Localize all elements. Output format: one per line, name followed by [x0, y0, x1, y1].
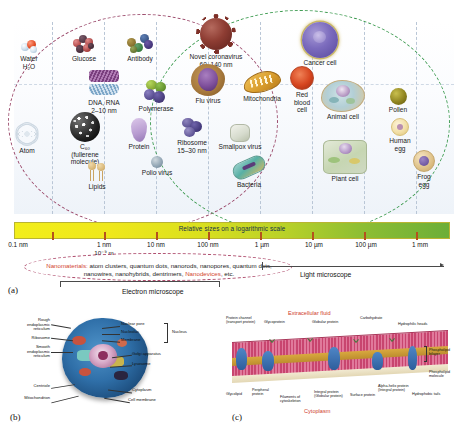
organelle-mitochondrion	[114, 371, 129, 381]
scale-tick	[416, 232, 418, 240]
specimen-label: Polio virus	[125, 169, 189, 177]
electron-microscope-label: Electron microscope	[122, 288, 184, 295]
cell-label-mitochondrion: Mitochondrion	[2, 396, 50, 401]
panel-b-animal-cell-diagram: Rough endoplasmic reticulum Ribosome Smo…	[0, 300, 226, 432]
membrane-label-filaments-cytoskeleton: Filaments of cytoskeleton	[280, 395, 310, 404]
water-icon	[19, 40, 39, 54]
bacteria-icon	[232, 156, 266, 180]
organelle-dot	[72, 336, 86, 346]
specimen-label: Lipids	[65, 183, 129, 191]
scale-tick-label: 1 nm	[97, 241, 111, 248]
panel-c-tag: (c)	[232, 412, 242, 422]
phospholipid-bilayer-illustration	[232, 336, 448, 380]
membrane-label-extracellular-fluid: Extracellular fluid	[288, 310, 331, 316]
cancer-cell-icon	[302, 22, 338, 58]
specimen-lipids: Lipids	[65, 162, 129, 191]
membrane-label-hydrophobic-tails: Hydrophobic tails	[412, 392, 446, 396]
polio-virus-icon	[151, 156, 163, 168]
scale-tick-label: 10 µm	[305, 241, 323, 248]
coronavirus-icon	[196, 14, 236, 52]
specimen-polio-virus: Polio virus	[125, 156, 189, 177]
cell-label-rough-er: Rough endoplasmic reticulum	[6, 318, 50, 332]
membrane-label-integral-protein: Integral protein (Globular protein)	[314, 390, 348, 399]
cell-label-golgi: Golgi apparatus	[132, 352, 180, 357]
specimen-plant-cell: Plant cell	[310, 140, 380, 183]
fullerene-icon	[70, 112, 100, 142]
panel-c-membrane-diagram: Extracellular fluid Protein channel (tra…	[226, 300, 454, 432]
glucose-icon	[72, 34, 96, 54]
antibody-icon	[127, 34, 153, 54]
panel-a-size-scale: Water H₂O Glucose Antibody Novel coronav…	[0, 0, 454, 300]
nucleus-group-brace	[164, 323, 168, 343]
membrane-label-glycoprotein: Glycoprotein	[264, 320, 294, 324]
leader-line	[102, 334, 120, 335]
ribosome-icon	[181, 118, 203, 138]
light-microscope-label: Light microscope	[300, 271, 351, 278]
peripheral-protein-shape	[262, 351, 274, 371]
nanomaterials-tail: , etc.	[221, 270, 234, 277]
scale-tick	[312, 232, 314, 240]
dna-rna-icon	[87, 70, 121, 98]
flu-virus-icon	[191, 64, 225, 96]
specimen-label: Plant cell	[310, 175, 380, 183]
nanomaterials-caption: Nanomaterials: atom clusters, quantum do…	[34, 262, 284, 277]
membrane-label-phospholipid-bilayer: Phospholipid bilayer	[429, 348, 454, 357]
cell-label-centriole: Centriole	[6, 384, 50, 389]
membrane-label-carbohydrate: Carbohydrate	[360, 316, 392, 320]
membrane-label-surface-protein: Surface protein	[350, 393, 378, 397]
smallpox-virus-icon	[230, 124, 250, 142]
specimen-pollen: Pollen	[366, 88, 430, 114]
scale-tick-label: 100 µm	[355, 241, 376, 248]
human-egg-icon	[391, 118, 409, 136]
atom-icon	[14, 122, 40, 146]
cell-label-smooth-er: Smooth endoplasmic reticulum	[2, 345, 50, 359]
surface-protein-shape	[372, 352, 383, 370]
specimen-label: Polymerase	[124, 105, 188, 113]
cell-label-lysosome: Lysosome	[132, 362, 176, 367]
panel-b-tag: (b)	[10, 412, 21, 422]
cell-label-membrane: Membrane	[121, 338, 161, 343]
cell-label-nuclear-pore: Nuclear pore	[121, 322, 161, 327]
scale-tick	[260, 232, 262, 240]
specimen-antibody: Antibody	[108, 34, 172, 63]
membrane-label-cytoplasm: Cytoplasm	[304, 408, 330, 414]
arrow-right-icon	[440, 263, 444, 267]
membrane-label-protein-channel: Protein channel (transport protein)	[226, 316, 260, 325]
scale-tick	[52, 232, 54, 240]
membrane-label-glycolipid: Glycolipid	[226, 392, 250, 396]
scale-tick-label: 1 mm	[412, 241, 428, 248]
animal-cell-icon	[321, 80, 365, 112]
nucleolus-shape	[98, 351, 107, 360]
nanomaterials-body: atom clusters, quantum dots, nanorods, n…	[84, 262, 272, 277]
panel-a-tag: (a)	[8, 285, 18, 295]
cell-label-nucleus-group: Nucleus	[172, 330, 206, 335]
nanomaterials-lead: Nanomaterials:	[46, 262, 88, 269]
membrane-label-alpha-helix-protein: Alpha-helix protein (Integral protein)	[378, 384, 416, 393]
range-end-cap	[262, 262, 263, 270]
membrane-label-peripheral-protein: Peripheral protein	[252, 388, 280, 397]
lipids-icon	[86, 162, 108, 182]
pollen-icon	[390, 88, 407, 105]
specimen-label: Pollen	[366, 106, 430, 114]
scale-tick	[364, 232, 366, 240]
specimen-label: Atom	[0, 147, 59, 155]
specimen-coronavirus: Novel coronavirus 60–140 nm	[174, 14, 258, 68]
log-scale-bar: Relative sizes on a logarithmic scale	[14, 222, 450, 239]
specimen-label: Glucose	[52, 55, 116, 63]
scale-tick	[208, 232, 210, 240]
scale-tick	[156, 232, 158, 240]
scale-tick-label: 0.1 nm	[8, 241, 28, 248]
membrane-label-phospholipid-molecule: Phospholipid molecule	[429, 370, 454, 379]
membrane-label-hydrophilic-heads: Hydrophilic heads	[398, 322, 436, 326]
leader-line	[104, 398, 130, 403]
scale-tick-label: 100 nm	[197, 241, 218, 248]
specimen-frog-egg: Frog egg	[392, 150, 454, 188]
specimen-label: Smallpox virus	[206, 143, 274, 151]
protein-icon	[131, 118, 147, 142]
specimen-cancer-cell: Cancer cell	[288, 22, 352, 67]
specimen-glucose: Glucose	[52, 34, 116, 63]
light-microscope-range-line	[262, 266, 444, 267]
scale-tick-label: 10 nm	[147, 241, 165, 248]
scale-bar-label: Relative sizes on a logarithmic scale	[14, 225, 450, 232]
cell-label-cell-membrane: Cell membrane	[128, 398, 178, 403]
